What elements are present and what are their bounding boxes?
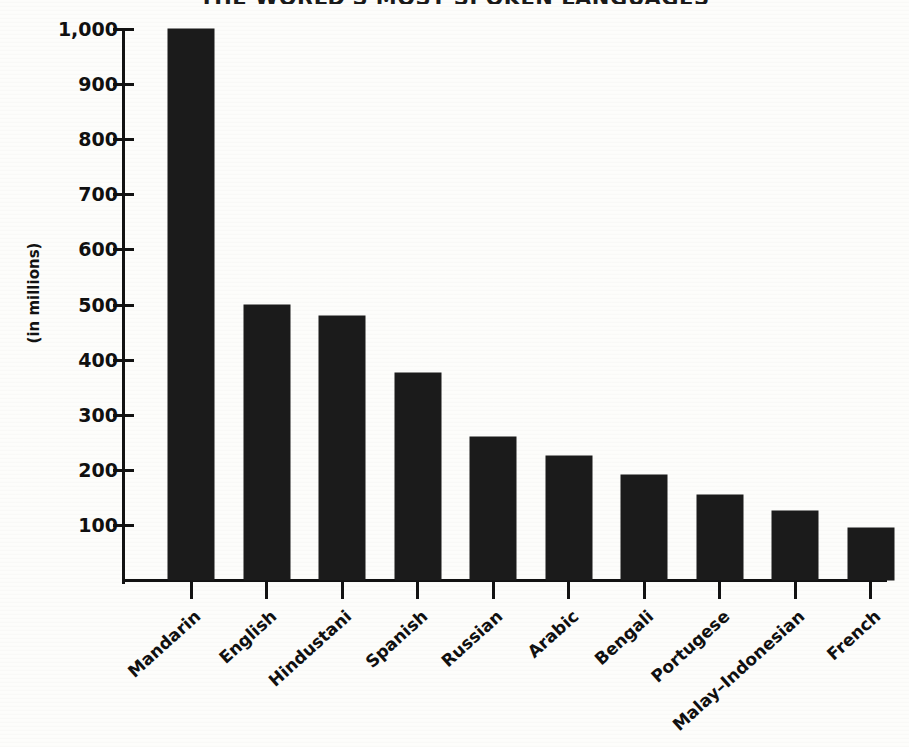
y-tick-label: 1,000	[32, 20, 118, 39]
bar	[395, 373, 441, 580]
bar	[470, 437, 516, 580]
y-tick-label: 600	[32, 240, 118, 259]
bar	[244, 305, 290, 581]
bar	[697, 495, 743, 580]
x-tick-mark	[265, 582, 268, 599]
x-tick-mark	[190, 582, 193, 599]
y-tick-label: 800	[32, 130, 118, 149]
plot-area: 1002003004005006007008009001,000 Mandari…	[0, 0, 909, 747]
x-tick-mark	[416, 582, 419, 599]
bar	[546, 456, 592, 580]
x-tick-mark	[869, 582, 872, 599]
x-tick-label: Mandarin	[42, 606, 204, 747]
bar	[621, 475, 667, 580]
y-tick-label: 100	[32, 515, 118, 534]
y-tick-label: 900	[32, 75, 118, 94]
y-tick-label: 400	[32, 350, 118, 369]
x-tick-mark	[341, 582, 344, 599]
bar	[848, 528, 894, 580]
x-tick-mark	[718, 582, 721, 599]
bar	[319, 316, 365, 580]
x-tick-mark	[492, 582, 495, 599]
chart-figure: THE WORLD'S MOST SPOKEN LANGUAGES (in mi…	[0, 0, 909, 747]
x-tick-mark	[794, 582, 797, 599]
y-tick-label: 500	[32, 295, 118, 314]
x-tick-mark	[567, 582, 570, 599]
y-tick-label: 300	[32, 405, 118, 424]
bar	[772, 511, 818, 580]
bar	[168, 29, 214, 580]
x-tick-mark	[643, 582, 646, 599]
y-tick-label: 700	[32, 185, 118, 204]
y-tick-label: 200	[32, 460, 118, 479]
